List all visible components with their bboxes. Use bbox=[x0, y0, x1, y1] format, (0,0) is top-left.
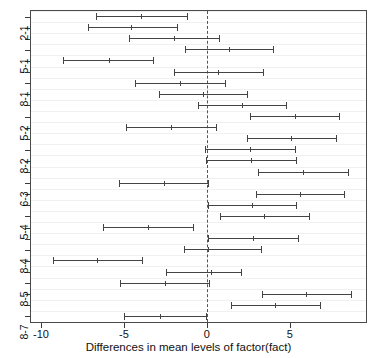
ci-lower-cap bbox=[262, 291, 263, 298]
ci-lower-cap bbox=[88, 24, 89, 31]
ci-point-estimate bbox=[165, 281, 166, 286]
ci-row bbox=[31, 56, 366, 65]
ci-row bbox=[31, 156, 366, 165]
ci-point-estimate bbox=[208, 247, 209, 252]
ci-upper-cap bbox=[296, 157, 297, 164]
ci-lower-cap bbox=[119, 180, 120, 187]
ci-upper-cap bbox=[298, 235, 299, 242]
ci-row bbox=[31, 12, 366, 21]
ci-point-estimate bbox=[164, 181, 165, 186]
ci-upper-cap bbox=[263, 69, 264, 76]
ci-point-estimate bbox=[171, 125, 172, 130]
ci-point-estimate bbox=[303, 170, 304, 175]
ci-lower-cap bbox=[208, 202, 209, 209]
ci-lower-cap bbox=[256, 191, 257, 198]
ci-lower-cap bbox=[120, 280, 121, 287]
ci-point-estimate bbox=[251, 158, 252, 163]
ci-lower-cap bbox=[129, 35, 130, 42]
ci-upper-cap bbox=[219, 35, 220, 42]
y-tick-label: 8-4 bbox=[18, 249, 30, 283]
ci-row bbox=[31, 145, 366, 154]
ci-point-estimate bbox=[211, 270, 212, 275]
ci-row bbox=[31, 79, 366, 88]
ci-upper-cap bbox=[247, 91, 248, 98]
ci-point-estimate bbox=[203, 92, 204, 97]
ci-point-estimate bbox=[252, 203, 253, 208]
plot-area bbox=[30, 10, 367, 323]
gridline bbox=[31, 322, 366, 323]
x-tick-label: -5 bbox=[104, 328, 144, 340]
y-tick-label: 6-3 bbox=[18, 182, 30, 216]
ci-upper-cap bbox=[153, 57, 154, 64]
ci-row bbox=[31, 212, 366, 221]
ci-lower-cap bbox=[96, 13, 97, 20]
ci-lower-cap bbox=[231, 302, 232, 309]
ci-row bbox=[31, 234, 366, 243]
ci-upper-cap bbox=[320, 302, 321, 309]
ci-lower-cap bbox=[53, 257, 54, 264]
ci-upper-cap bbox=[339, 113, 340, 120]
ci-row bbox=[31, 101, 366, 110]
ci-row bbox=[31, 134, 366, 143]
ci-lower-cap bbox=[220, 213, 221, 220]
ci-row bbox=[31, 223, 366, 232]
tukey-hsd-plot: -10-505 Differences in mean levels of fa… bbox=[0, 0, 377, 358]
ci-point-estimate bbox=[131, 25, 132, 30]
y-tick-label: 5-1 bbox=[18, 49, 30, 83]
y-tick-label: 2-1 bbox=[18, 16, 30, 50]
ci-point-estimate bbox=[97, 258, 98, 263]
ci-lower-cap bbox=[63, 57, 64, 64]
ci-upper-cap bbox=[351, 291, 352, 298]
ci-lower-cap bbox=[198, 102, 199, 109]
ci-row bbox=[31, 312, 366, 321]
ci-lower-cap bbox=[126, 124, 127, 131]
ci-point-estimate bbox=[148, 225, 149, 230]
ci-row bbox=[31, 201, 366, 210]
ci-upper-cap bbox=[309, 213, 310, 220]
ci-row bbox=[31, 268, 366, 277]
ci-point-estimate bbox=[306, 292, 307, 297]
ci-upper-cap bbox=[225, 80, 226, 87]
ci-point-estimate bbox=[250, 147, 251, 152]
ci-upper-cap bbox=[177, 24, 178, 31]
ci-row bbox=[31, 279, 366, 288]
ci-row bbox=[31, 190, 366, 199]
ci-upper-cap bbox=[187, 13, 188, 20]
ci-row bbox=[31, 256, 366, 265]
ci-lower-cap bbox=[166, 269, 167, 276]
ci-bar bbox=[124, 316, 206, 317]
ci-lower-cap bbox=[103, 224, 104, 231]
ci-upper-cap bbox=[261, 246, 262, 253]
ci-upper-cap bbox=[273, 46, 274, 53]
ci-point-estimate bbox=[291, 136, 292, 141]
ci-row bbox=[31, 179, 366, 188]
ci-row bbox=[31, 68, 366, 77]
ci-upper-cap bbox=[241, 269, 242, 276]
x-tick-label: 5 bbox=[270, 328, 310, 340]
ci-row bbox=[31, 34, 366, 43]
ci-bar bbox=[166, 272, 241, 273]
ci-point-estimate bbox=[295, 114, 296, 119]
ci-lower-cap bbox=[184, 246, 185, 253]
y-tick-label: 8-1 bbox=[18, 82, 30, 116]
ci-row bbox=[31, 245, 366, 254]
ci-lower-cap bbox=[159, 91, 160, 98]
ci-upper-cap bbox=[296, 202, 297, 209]
ci-upper-cap bbox=[142, 257, 143, 264]
ci-row bbox=[31, 168, 366, 177]
ci-point-estimate bbox=[253, 236, 254, 241]
ci-bar bbox=[63, 60, 153, 61]
ci-lower-cap bbox=[185, 46, 186, 53]
ci-lower-cap bbox=[250, 113, 251, 120]
ci-point-estimate bbox=[180, 81, 181, 86]
ci-upper-cap bbox=[348, 169, 349, 176]
ci-row bbox=[31, 112, 366, 121]
ci-upper-cap bbox=[336, 135, 337, 142]
ci-upper-cap bbox=[295, 146, 296, 153]
y-tick-label: 5-4 bbox=[18, 215, 30, 249]
ci-point-estimate bbox=[300, 192, 301, 197]
ci-lower-cap bbox=[247, 135, 248, 142]
x-axis-title: Differences in mean levels of factor(fac… bbox=[0, 341, 377, 353]
x-tick-label: 0 bbox=[187, 328, 227, 340]
ci-row bbox=[31, 123, 366, 132]
